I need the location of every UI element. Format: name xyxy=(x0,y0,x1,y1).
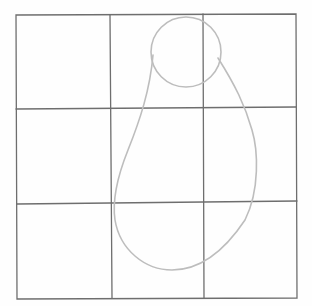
sketch-canvas xyxy=(0,0,312,306)
grid-horizontal-line-2 xyxy=(17,201,297,204)
pear-shape xyxy=(114,17,256,270)
grid xyxy=(16,14,297,299)
grid-outer-frame xyxy=(16,14,297,299)
grid-vertical-line-2 xyxy=(203,14,204,298)
pear-head-circle xyxy=(151,17,221,87)
sketch-drawing xyxy=(0,0,312,306)
grid-vertical-line-1 xyxy=(110,15,112,298)
grid-horizontal-line-1 xyxy=(16,107,296,109)
